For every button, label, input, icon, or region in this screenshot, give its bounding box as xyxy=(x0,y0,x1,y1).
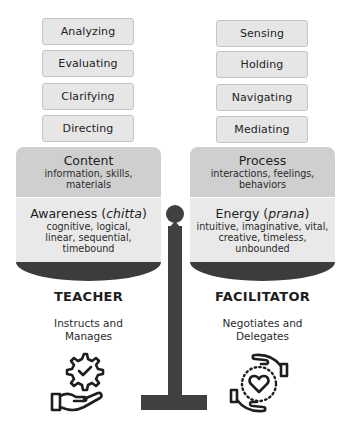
left-scale-pan xyxy=(16,262,161,281)
step-navigating: Navigating xyxy=(216,84,308,111)
energy-title: Energy (prana) xyxy=(216,207,310,221)
scale-base xyxy=(141,395,207,410)
teacher-title: TEACHER xyxy=(16,289,161,304)
content-title: Content xyxy=(64,154,114,168)
process-title: Process xyxy=(239,154,286,168)
hands-heart-cycle-icon xyxy=(225,352,293,414)
step-evaluating: Evaluating xyxy=(42,50,134,77)
awareness-title: Awareness (chitta) xyxy=(30,207,147,221)
step-directing: Directing xyxy=(42,115,134,142)
content-panel: Content information, skills, materials xyxy=(16,147,161,197)
energy-desc: intuitive, imaginative, vital, creative,… xyxy=(193,221,333,254)
hand-gear-check-icon xyxy=(48,350,112,414)
content-desc: information, skills, materials xyxy=(39,168,139,190)
facilitator-subtitle: Negotiates andDelegates xyxy=(190,317,335,343)
scale-pole xyxy=(168,226,182,402)
process-panel: Process interactions, feelings, behavior… xyxy=(190,147,335,197)
awareness-panel: Awareness (chitta) cognitive, logical, l… xyxy=(16,198,161,262)
process-desc: interactions, feelings, behaviors xyxy=(198,168,328,190)
teacher-subtitle: Instructs andManages xyxy=(16,317,161,343)
energy-panel: Energy (prana) intuitive, imaginative, v… xyxy=(190,198,335,262)
step-mediating: Mediating xyxy=(216,116,308,143)
right-scale-pan xyxy=(190,262,335,281)
step-sensing: Sensing xyxy=(216,20,308,47)
awareness-desc: cognitive, logical, linear, sequential, … xyxy=(39,221,139,254)
step-holding: Holding xyxy=(216,51,308,78)
facilitator-title: FACILITATOR xyxy=(190,289,335,304)
step-clarifying: Clarifying xyxy=(42,83,134,110)
step-analyzing: Analyzing xyxy=(42,18,134,45)
